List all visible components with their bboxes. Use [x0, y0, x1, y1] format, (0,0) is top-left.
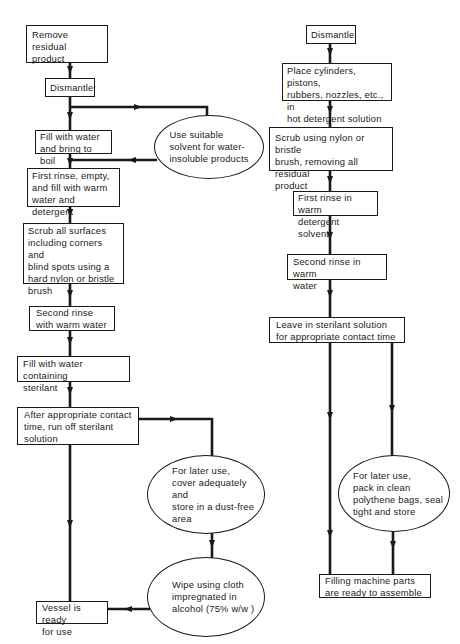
step-leave-in-sterilant: Leave in sterilant solution for appropri… [269, 317, 405, 343]
step-scrub-nylon-brush: Scrub using nylon or bristle brush, remo… [269, 127, 393, 171]
step-remove-residual-product: Remove residual product [26, 25, 108, 63]
step-fill-water-boil: Fill with water and bring to boil [35, 130, 112, 154]
step-dismantle-vessel: Dismantle [45, 78, 95, 97]
step-dismantle-machine: Dismantle [306, 25, 356, 44]
step-wipe-with-alcohol: Wipe using cloth impregnated in alcohol … [147, 557, 265, 637]
step-run-off-sterilant: After appropriate contact time, run off … [17, 407, 139, 445]
step-place-parts-detergent: Place cylinders, pistons, rubbers, nozzl… [282, 63, 392, 101]
pack-ellipse-text: For later use, pack in clean polythene b… [353, 470, 443, 518]
solvent-ellipse-text: Use suitable solvent for water- insolubl… [169, 129, 248, 165]
cover-store-ellipse-text: For later use, cover adequately and stor… [172, 465, 264, 525]
step-vessel-ready: Vessel is ready for use [36, 601, 108, 624]
step-parts-ready: Filling machine parts are ready to assem… [319, 574, 431, 598]
step-scrub-all-surfaces: Scrub all surfaces including corners and… [23, 223, 124, 284]
step-cover-and-store: For later use, cover adequately and stor… [147, 455, 265, 534]
wipe-ellipse-text: Wipe using cloth impregnated in alcohol … [172, 579, 254, 615]
step-second-rinse: Second rinse with warm water [29, 306, 115, 331]
step-pack-in-bags: For later use, pack in clean polythene b… [338, 455, 450, 532]
step-first-rinse: First rinse, empty, and fill with warm w… [27, 168, 120, 207]
step-fill-water-sterilant: Fill with water containing sterilant [17, 356, 130, 382]
step-use-suitable-solvent: Use suitable solvent for water- insolubl… [154, 115, 264, 179]
step-first-rinse-detergent: First rinse in warm detergent solvent [293, 191, 378, 216]
step-second-rinse-water: Second rinse in warm water [287, 254, 387, 280]
